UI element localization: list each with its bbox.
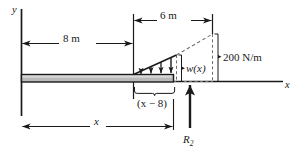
reaction-r2-subscript: 2 <box>190 139 194 148</box>
beam <box>22 75 174 83</box>
reaction-r2-label: R2 <box>182 133 194 148</box>
load-intensity-label: w(x) <box>186 62 206 75</box>
dimension-x-minus-8-label: (x − 8) <box>137 97 167 110</box>
beam-load-diagram: y x 8 m <box>0 0 297 148</box>
x-axis-label: x <box>284 79 290 90</box>
load-peak-label: 200 N/m <box>223 51 262 63</box>
dimension-6m-label: 6 m <box>160 9 177 21</box>
dimension-x-label: x <box>93 115 99 127</box>
dimension-x-minus-8 <box>135 87 175 96</box>
y-axis-label: y <box>11 4 17 15</box>
dimension-200nm <box>215 34 222 82</box>
dimension-wx <box>179 55 186 82</box>
dimension-8m-label: 8 m <box>63 32 80 44</box>
